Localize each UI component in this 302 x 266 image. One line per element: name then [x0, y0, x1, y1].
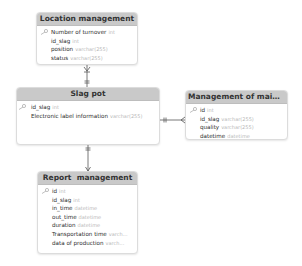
column-type: int: [72, 38, 79, 44]
table-location-management[interactable]: Location management Number of turnoverin…: [36, 12, 138, 65]
column-row[interactable]: durationdatetime: [38, 221, 137, 230]
column-name: out_time: [52, 214, 77, 220]
column-type: int: [52, 104, 59, 110]
column-type: varchar(255): [110, 113, 142, 119]
table-title: Management of mainten...: [186, 91, 287, 104]
column-name: position: [51, 46, 73, 52]
column-type: datetime: [79, 214, 102, 220]
column-row[interactable]: id_slagint: [37, 37, 137, 46]
column-type: varchar(255): [75, 46, 107, 52]
relationship-slagpot-report: [86, 145, 91, 171]
column-type: datetime: [75, 205, 98, 211]
column-row[interactable]: data of productionvarch...: [38, 239, 137, 248]
column-name: id: [52, 188, 57, 194]
column-name: id_slag: [51, 38, 70, 44]
column-row[interactable]: Electronic label informationvarchar(255): [17, 112, 159, 121]
relationship-slagpot-maintenance: [160, 117, 185, 123]
relationship-location-slagpot: [84, 65, 90, 87]
column-row[interactable]: idint: [186, 106, 287, 115]
primary-key-icon: [41, 188, 49, 194]
table-title: Slag pot: [17, 88, 159, 101]
column-type: varch...: [106, 240, 125, 246]
column-type: datetime: [227, 133, 250, 139]
column-row[interactable]: id_slagint: [38, 196, 137, 205]
column-name: in_time: [52, 205, 73, 211]
column-row[interactable]: out_timedatetime: [38, 213, 137, 222]
table-title: Report management: [38, 172, 137, 185]
table-title: Location management: [37, 13, 137, 26]
column-name: id_slag: [200, 116, 219, 122]
column-name: quality: [200, 124, 219, 130]
primary-key-icon: [40, 29, 48, 35]
column-type: varchar(255): [221, 124, 253, 130]
column-name: id: [200, 107, 205, 113]
column-row[interactable]: id_slagvarchar(255): [186, 115, 287, 124]
column-row[interactable]: datetimedatetime: [186, 132, 287, 140]
column-type: datetime: [78, 222, 101, 228]
column-row[interactable]: idint: [38, 187, 137, 196]
table-maintenance-management[interactable]: Management of mainten... idint id_slagva…: [185, 90, 288, 140]
column-row[interactable]: positionvarchar(255): [37, 45, 137, 54]
column-name: id_slag: [31, 104, 50, 110]
column-type: int: [73, 197, 80, 203]
table-slag-pot[interactable]: Slag pot id_slagint Electronic label inf…: [16, 87, 160, 145]
column-name: duration: [52, 222, 76, 228]
column-row[interactable]: Transportation timevarch...: [38, 230, 137, 239]
column-type: int: [207, 107, 214, 113]
primary-key-icon: [189, 107, 197, 113]
column-row[interactable]: Number of turnoverint: [37, 28, 137, 37]
column-type: int: [59, 188, 66, 194]
column-name: Number of turnover: [51, 29, 106, 35]
column-name: Transportation time: [52, 231, 107, 237]
column-name: datetime: [200, 133, 225, 139]
column-row[interactable]: id_slagint: [17, 103, 159, 112]
table-report-management[interactable]: Report management idint id_slagint in_ti…: [37, 171, 138, 254]
primary-key-icon: [18, 104, 26, 110]
column-row[interactable]: in_timedatetime: [38, 204, 137, 213]
column-name: id_slag: [52, 197, 71, 203]
column-type: varch...: [109, 231, 128, 237]
column-type: int: [108, 29, 115, 35]
column-type: varchar(255): [70, 55, 102, 61]
column-row[interactable]: qualityvarchar(255): [186, 123, 287, 132]
column-name: Electronic label information: [31, 113, 108, 119]
column-row[interactable]: statusvarchar(255): [37, 54, 137, 63]
column-type: varchar(255): [221, 116, 253, 122]
er-diagram-canvas: Location management Number of turnoverin…: [0, 0, 302, 266]
column-name: status: [51, 55, 68, 61]
column-name: data of production: [52, 240, 104, 246]
